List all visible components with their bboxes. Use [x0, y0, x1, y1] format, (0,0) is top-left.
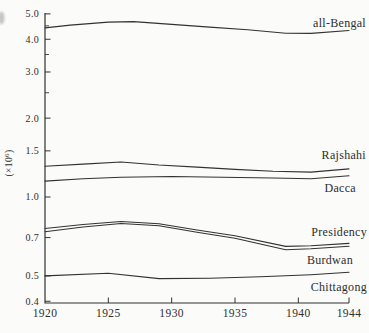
y-tick-label: 5.0 — [26, 8, 39, 19]
y-tick-label: 1.0 — [26, 191, 39, 202]
x-tick-label: 1925 — [96, 307, 121, 319]
x-tick-label: 1920 — [33, 307, 58, 319]
y-tick-label: 4.0 — [26, 34, 39, 45]
chart-canvas: 5.04.03.02.01.51.00.70.50.41920192519301… — [0, 0, 369, 333]
series-label-chittagong: Chittagong — [311, 280, 367, 294]
scanned-book-figure: 5.04.03.02.01.51.00.70.50.41920192519301… — [0, 0, 369, 333]
x-tick-label: 1940 — [286, 307, 311, 319]
y-tick-label: 0.4 — [26, 296, 39, 307]
series-label-presidency: Presidency — [311, 225, 367, 239]
series-label-dacca: Dacca — [325, 181, 357, 195]
y-tick-label: 3.0 — [26, 66, 39, 77]
y-tick-label: 2.0 — [26, 113, 39, 124]
bengal-line-chart: 5.04.03.02.01.51.00.70.50.41920192519301… — [0, 0, 369, 333]
y-tick-label: 0.7 — [26, 232, 39, 243]
y-tick-label: 1.5 — [26, 145, 39, 156]
series-label-burdwan: Burdwan — [307, 253, 353, 267]
series-label-all-bengal: all-Bengal — [313, 16, 366, 30]
y-axis-unit-label: (×106) — [3, 149, 16, 176]
x-tick-label: 1944 — [337, 307, 362, 319]
x-tick-label: 1935 — [223, 307, 248, 319]
x-tick-label: 1930 — [159, 307, 184, 319]
series-label-rajshahi: Rajshahi — [322, 148, 367, 162]
y-tick-label: 0.5 — [26, 270, 39, 281]
